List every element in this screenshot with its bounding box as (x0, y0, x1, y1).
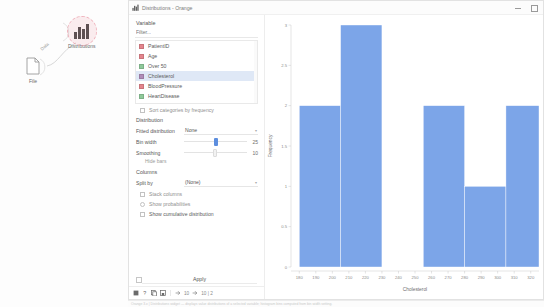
histogram-bar[interactable] (299, 106, 340, 267)
x-tick-label: 260 (428, 275, 436, 280)
checkbox-box (140, 108, 145, 113)
save-image-icon[interactable] (160, 290, 166, 296)
variable-list[interactable]: PatientID Age Over 50 Cholesterol BloodP… (135, 40, 258, 104)
x-tick-label: 320 (527, 275, 535, 280)
list-item[interactable]: BloodPressure (136, 81, 257, 91)
dialog-statusbar: ? 10 10 | 2 (129, 286, 264, 299)
smoothing-slider[interactable] (184, 148, 247, 157)
list-item-label: PatientID (148, 43, 169, 49)
statusbar-divider (170, 290, 171, 296)
x-tick-label: 180 (296, 275, 304, 280)
input-count: 10 (184, 291, 189, 296)
document-icon (22, 55, 44, 77)
checkbox-box (140, 212, 145, 217)
bar-chart-icon (132, 4, 139, 11)
list-item-label: BloodPressure (148, 83, 182, 89)
fitted-distribution-row: Fitted distribution None ▾ (129, 125, 264, 136)
smoothing-label: Smoothing (136, 150, 184, 156)
x-tick-label: 200 (329, 275, 337, 280)
y-tick-label: 3 (285, 23, 288, 28)
dialog-titlebar[interactable]: Distributions - Orange (129, 1, 543, 15)
report-icon[interactable] (133, 290, 139, 296)
x-tick-label: 250 (412, 275, 420, 280)
hide-bars-label[interactable]: Hide bars (129, 158, 264, 166)
distributions-dialog: Distributions - Orange Variable PatientI… (128, 0, 544, 300)
plot-svg: 00.511.522.53Frequency180190200210220230… (265, 15, 544, 301)
fitted-distribution-label: Fitted distribution (136, 128, 184, 134)
histogram-bar[interactable] (423, 106, 464, 267)
list-item-label: HeartDisease (148, 93, 179, 99)
workflow-node-distributions[interactable]: Distributions (68, 20, 96, 49)
stack-columns-checkbox[interactable]: Stack columns (129, 188, 264, 198)
y-tick-label: 1.5 (281, 144, 287, 149)
sort-categories-label: Sort categories by frequency (149, 107, 214, 113)
y-tick-label: 1 (285, 184, 288, 189)
chevron-down-icon: ▾ (255, 128, 257, 133)
fitted-distribution-select[interactable]: None ▾ (184, 127, 258, 135)
chevron-down-icon: ▾ (255, 180, 257, 185)
y-tick-label: 2.5 (281, 63, 287, 68)
apply-row: Apply (129, 272, 264, 286)
list-item-selected[interactable]: Cholesterol (136, 71, 257, 81)
output-arrow-icon (192, 290, 198, 296)
smoothing-value: 10 (247, 150, 258, 156)
split-by-select[interactable]: (None) ▾ (184, 179, 258, 187)
split-by-value: (None) (185, 179, 201, 185)
x-tick-label: 280 (461, 275, 469, 280)
maximize-button[interactable] (530, 5, 536, 11)
workflow-canvas[interactable]: Data File Distributions (0, 0, 128, 307)
smoothing-row: Smoothing 10 (129, 147, 264, 158)
minimize-button[interactable] (515, 5, 521, 11)
slider-handle[interactable] (214, 138, 218, 146)
distribution-plot[interactable]: 00.511.522.53Frequency180190200210220230… (265, 15, 543, 299)
copy-icon[interactable] (151, 290, 157, 296)
workflow-node-file[interactable]: File (22, 55, 44, 84)
columns-group-title: Columns (129, 166, 264, 177)
variable-type-swatch (139, 94, 144, 99)
bottom-info-strip: Orange 3.x | Distributions widget — disp… (128, 300, 544, 307)
variable-type-swatch (139, 64, 144, 69)
show-probabilities-radio[interactable]: Show probabilities (129, 198, 264, 208)
help-icon[interactable]: ? (142, 290, 148, 296)
x-tick-label: 300 (494, 275, 502, 280)
variable-type-swatch (139, 84, 144, 89)
stack-columns-label: Stack columns (149, 191, 182, 197)
split-by-row: Split by (None) ▾ (129, 177, 264, 188)
bin-width-slider[interactable] (184, 137, 247, 146)
list-item-label: Age (148, 53, 157, 59)
filter-input[interactable] (135, 28, 258, 38)
variable-type-swatch (139, 74, 144, 79)
list-item[interactable]: HeartDisease (136, 91, 257, 101)
slider-handle[interactable] (213, 149, 217, 157)
x-axis-label: Cholesterol (403, 287, 427, 292)
sort-categories-checkbox[interactable]: Sort categories by frequency (129, 104, 264, 114)
list-item[interactable]: Age (136, 51, 257, 61)
list-item[interactable]: Over 50 (136, 61, 257, 71)
variable-list-scrollbar[interactable] (254, 41, 257, 103)
y-tick-label: 0.5 (281, 224, 287, 229)
split-by-label: Split by (136, 180, 184, 186)
x-tick-label: 210 (345, 275, 353, 280)
workflow-link (0, 0, 128, 307)
list-item-label: Cholesterol (148, 73, 174, 79)
apply-button[interactable]: Apply (142, 276, 257, 284)
histogram-bar[interactable] (341, 25, 382, 267)
variable-group-title: Variable (129, 17, 264, 28)
y-tick-label: 0 (285, 265, 288, 270)
histogram-bar[interactable] (506, 106, 539, 267)
x-tick-label: 220 (362, 275, 370, 280)
show-probabilities-label: Show probabilities (149, 201, 190, 207)
bin-width-label: Bin width (136, 139, 184, 145)
list-item[interactable]: PatientID (136, 41, 257, 51)
show-cumulative-checkbox[interactable]: Show cumulative distribution (129, 208, 264, 218)
workflow-node-file-label: File (22, 78, 44, 84)
y-axis-label: Frequency (268, 134, 273, 157)
distribution-group-title: Distribution (129, 114, 264, 125)
variable-type-swatch (139, 44, 144, 49)
x-tick-label: 270 (445, 275, 453, 280)
x-tick-label: 190 (312, 275, 320, 280)
histogram-bar[interactable] (465, 186, 506, 267)
x-tick-label: 230 (378, 275, 386, 280)
input-arrow-icon (175, 290, 181, 296)
show-cumulative-label: Show cumulative distribution (149, 211, 214, 217)
